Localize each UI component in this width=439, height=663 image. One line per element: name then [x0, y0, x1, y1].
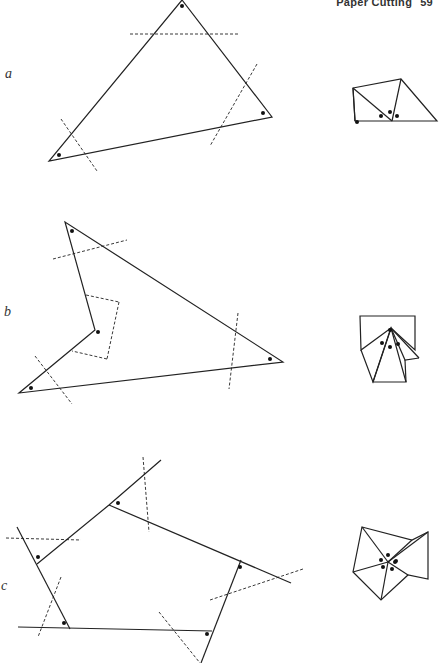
figure-a-triangle: [49, 0, 272, 161]
figure-b-rearranged: [360, 316, 419, 382]
diagram-canvas: [0, 0, 439, 663]
figure-c-cut-lines: [6, 457, 303, 663]
figure-c-polygon: [17, 460, 291, 663]
figure-a-cut-lines: [61, 34, 257, 171]
figure-c-rearranged: [353, 527, 428, 600]
figure-b-quadrilateral: [19, 222, 283, 393]
angle-markers: [29, 4, 400, 636]
figure-a-rearranged: [353, 79, 437, 121]
